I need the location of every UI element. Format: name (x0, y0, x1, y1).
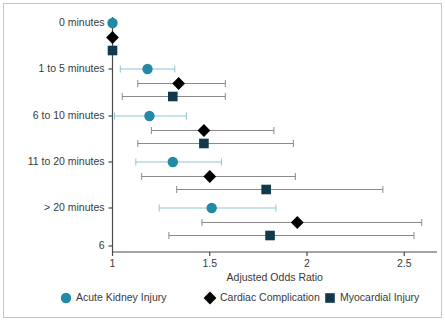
legend-label: Cardiac Complication (220, 291, 320, 303)
y-tick-label: 6 to 10 minutes (33, 109, 105, 121)
data-point-group (138, 139, 294, 149)
marker-square (199, 139, 209, 149)
data-point-group (202, 216, 422, 229)
forest-plot-canvas: 0 minutes1 to 5 minutes6 to 10 minutes11… (0, 0, 445, 321)
data-point-group (142, 170, 296, 183)
legend-label: Acute Kidney Injury (76, 291, 167, 303)
legend-label: Myocardial Injury (340, 291, 420, 303)
marker-square (265, 231, 275, 241)
data-point-group (138, 77, 226, 90)
forest-plot-figure: 0 minutes1 to 5 minutes6 to 10 minutes11… (0, 0, 445, 321)
y-tick-label: 11 to 20 minutes (28, 155, 105, 167)
data-point-group (114, 111, 186, 121)
marker-square (261, 185, 271, 195)
legend-marker-square (325, 293, 335, 303)
x-axis-title: Adjusted Odds Ratio (227, 271, 323, 283)
data-point-group (107, 18, 117, 28)
data-point-group (136, 157, 222, 167)
x-tick-label: 1 (110, 257, 116, 269)
y-tick-label: > 20 minutes (44, 201, 104, 213)
x-tick-label: 2.5 (397, 257, 412, 269)
marker-diamond (198, 124, 211, 137)
x-tick-label: 1.5 (202, 257, 217, 269)
data-point-group (122, 92, 225, 102)
legend-marker-circle (61, 293, 71, 303)
marker-circle (144, 111, 154, 121)
y-tick-label: 0 minutes (59, 16, 105, 28)
marker-diamond (203, 170, 216, 183)
data-point-group (108, 46, 118, 56)
legend-item[interactable]: Cardiac Complication (204, 291, 320, 305)
marker-square (168, 92, 178, 102)
marker-diamond (106, 31, 119, 44)
data-point-group (151, 124, 274, 137)
marker-diamond (291, 216, 304, 229)
data-point-group (177, 185, 383, 195)
data-point-group (106, 31, 119, 44)
data-point-group (169, 231, 414, 241)
marker-circle (206, 203, 216, 213)
data-point-group (120, 64, 174, 74)
marker-circle (168, 157, 178, 167)
y-tick-label: 6 (99, 239, 105, 251)
x-tick-label: 2 (304, 257, 310, 269)
data-point-group (159, 203, 276, 213)
marker-circle (142, 64, 152, 74)
y-tick-label: 1 to 5 minutes (39, 62, 105, 74)
legend-item[interactable]: Acute Kidney Injury (61, 291, 167, 303)
legend-marker-diamond (204, 292, 217, 305)
marker-diamond (172, 77, 185, 90)
marker-circle (107, 18, 117, 28)
marker-square (108, 46, 118, 56)
legend-item[interactable]: Myocardial Injury (325, 291, 420, 303)
